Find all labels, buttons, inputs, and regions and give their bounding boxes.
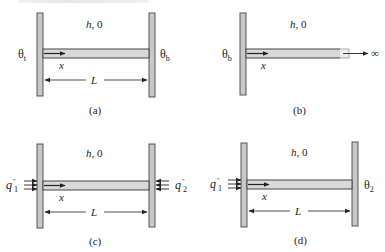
q1-flux-sub: 1 <box>14 185 18 194</box>
convection-label: h, 0 <box>86 147 103 159</box>
q2-flux-sub: 2 <box>183 185 187 194</box>
fin-boundary-conditions-diagram: x h, 0 θt θb L (a) x h, 0 θb ∞ (b) x h, … <box>0 0 385 252</box>
left-wall <box>241 143 247 227</box>
left-wall <box>240 13 246 95</box>
panel-b: x h, 0 θb ∞ (b) <box>222 13 379 117</box>
theta-b-label: θb <box>160 47 170 63</box>
heat-flux-in-arrows-right <box>156 181 169 189</box>
q2-flux-label: q <box>175 178 181 192</box>
panel-a: x h, 0 θt θb L (a) <box>18 13 170 117</box>
panel-c: x h, 0 q '' 1 q '' 2 L (c) <box>6 144 187 248</box>
left-wall <box>37 13 43 96</box>
infinity-label: ∞ <box>371 47 379 59</box>
caption-c: (c) <box>89 235 102 248</box>
length-label: L <box>90 206 97 218</box>
q1-flux-sup: '' <box>217 176 220 184</box>
length-label: L <box>294 205 301 217</box>
convection-label: h, 0 <box>86 18 103 30</box>
q1-flux-sup: '' <box>13 177 16 185</box>
convection-label: h, 0 <box>290 18 307 30</box>
right-wall <box>149 13 155 97</box>
q1-flux-sub: 1 <box>218 184 222 193</box>
length-label: L <box>90 74 97 86</box>
theta-b-label: θb <box>222 47 232 63</box>
convection-label: h, 0 <box>291 146 308 158</box>
right-wall <box>352 142 358 226</box>
heat-flux-in-arrows <box>228 180 241 188</box>
caption-b: (b) <box>293 104 306 117</box>
theta-t-label: θt <box>18 47 27 63</box>
q1-flux-label: q <box>6 178 12 192</box>
right-wall <box>149 144 155 227</box>
x-label: x <box>260 59 266 71</box>
q2-flux-sup: '' <box>182 177 185 185</box>
caption-a: (a) <box>89 104 102 117</box>
q1-flux-label: q <box>210 177 216 191</box>
panel-d: x h, 0 q '' 1 θ2 L (d) <box>210 142 374 247</box>
caption-d: (d) <box>294 234 307 247</box>
x-label: x <box>261 190 267 202</box>
left-wall <box>37 144 43 228</box>
x-label: x <box>58 191 64 203</box>
heat-flux-in-arrows <box>24 181 37 189</box>
theta-2-label: θ2 <box>364 178 374 194</box>
x-label: x <box>58 59 64 71</box>
